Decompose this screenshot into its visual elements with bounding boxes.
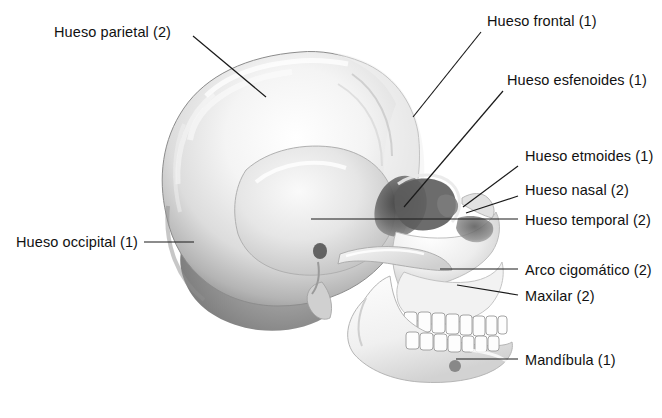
figure-canvas: Hueso parietal (2) Hueso frontal (1) Hue… [0,0,662,418]
label-hueso-frontal: Hueso frontal (1) [487,13,597,29]
label-mandibula: Mandíbula (1) [525,352,616,368]
label-maxilar: Maxilar (2) [525,288,595,304]
mental-foramen [449,360,461,372]
label-hueso-temporal: Hueso temporal (2) [525,212,651,228]
label-hueso-nasal: Hueso nasal (2) [525,182,629,198]
leader-line-frontal [413,32,481,117]
label-arco-cigomatico: Arco cigomático (2) [525,262,652,278]
external-auditory-meatus [313,243,327,259]
skull-illustration [162,51,512,382]
label-hueso-occipital: Hueso occipital (1) [16,234,138,250]
label-hueso-etmoides: Hueso etmoides (1) [525,148,653,164]
label-hueso-parietal: Hueso parietal (2) [54,24,171,40]
label-hueso-esfenoides: Hueso esfenoides (1) [507,72,647,88]
